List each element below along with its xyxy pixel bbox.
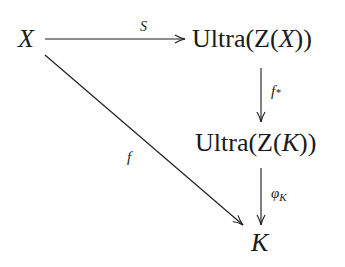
ultra-z-x-var: X xyxy=(279,24,295,53)
node-k: K xyxy=(251,230,268,256)
label-f-star-sub: * xyxy=(275,86,281,98)
node-ultra-z-x: Ultra(Z(X)) xyxy=(192,26,312,52)
label-s: S xyxy=(140,20,147,34)
node-ultra-z-k: Ultra(Z(K)) xyxy=(195,130,316,156)
label-phi-k-sub: K xyxy=(279,191,286,203)
ultra-z-k-var: K xyxy=(282,128,299,157)
ultra-z-x-suffix: )) xyxy=(295,24,312,53)
label-f: f xyxy=(127,150,131,165)
label-f-star: f* xyxy=(271,84,281,99)
node-x: X xyxy=(18,26,34,52)
ultra-z-k-suffix: )) xyxy=(299,128,316,157)
label-phi-k: φK xyxy=(271,186,287,203)
ultra-z-k-prefix: Ultra(Z( xyxy=(195,128,282,157)
ultra-z-x-prefix: Ultra(Z( xyxy=(192,24,279,53)
